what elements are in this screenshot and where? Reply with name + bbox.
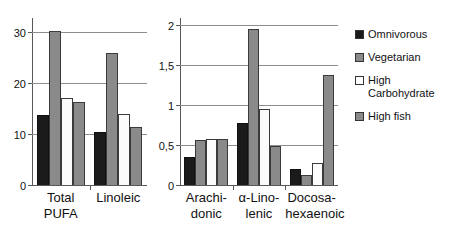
legend-swatch-icon (355, 53, 364, 62)
plot-wrapper-right: 00,511,52 Arachi- donicα-Lino- lenicDoco… (148, 0, 353, 232)
bar (61, 98, 73, 185)
legend-swatch-icon (355, 112, 364, 121)
bar (270, 146, 281, 185)
bar-group (90, 17, 148, 185)
y-tick-label: 20 (14, 79, 26, 90)
bar (248, 29, 259, 185)
bar (290, 169, 301, 185)
bar (37, 115, 49, 185)
legend-item[interactable]: Vegetarian (355, 51, 449, 64)
y-tick-label: 1 (168, 101, 174, 112)
bar-set (90, 17, 148, 185)
bar (206, 139, 217, 185)
category-label: Arachi- donic (180, 190, 233, 222)
bar (184, 157, 195, 185)
chart-panel-left: 0102030 Total PUFALinoleic (0, 0, 155, 232)
legend-swatch-icon (355, 76, 364, 85)
category-label: Docosa- hexaenoic (285, 190, 338, 222)
bar-set (180, 17, 233, 185)
bar (323, 75, 334, 185)
y-tick-label: 2 (168, 21, 174, 32)
legend-swatch-icon (355, 30, 364, 39)
bar (217, 139, 228, 185)
bar-set (32, 17, 90, 185)
category-label: Total PUFA (32, 190, 90, 222)
y-tick-label: 30 (14, 28, 26, 39)
legend-label: Omnivorous (368, 28, 427, 41)
chart-legend: OmnivorousVegetarianHigh CarbohydrateHig… (355, 28, 449, 133)
y-tick-label: 1,5 (159, 61, 174, 72)
bar (195, 140, 206, 185)
y-tick-label: 10 (14, 130, 26, 141)
legend-label: Vegetarian (368, 51, 421, 64)
category-label: Linoleic (90, 190, 148, 206)
y-tick (28, 185, 32, 186)
y-tick-label: 0 (168, 181, 174, 192)
y-tick-label: 0,5 (159, 141, 174, 152)
bar (73, 102, 85, 185)
bar (49, 31, 61, 185)
legend-item[interactable]: Omnivorous (355, 28, 449, 41)
chart-panel-right: 00,511,52 Arachi- donicα-Lino- lenicDoco… (148, 0, 353, 232)
bar-group (180, 17, 233, 185)
bar (259, 109, 270, 185)
legend-label: High Carbohydrate (368, 74, 435, 100)
y-tick-label: 0 (20, 181, 26, 192)
plot-area-left: 0102030 (32, 18, 147, 186)
bar (312, 163, 323, 185)
bar-set (233, 17, 286, 185)
bar-group (233, 17, 286, 185)
legend-label: High fish (368, 110, 411, 123)
bar (118, 114, 130, 185)
x-axis-right (180, 185, 338, 186)
legend-item[interactable]: High fish (355, 110, 449, 123)
plot-wrapper-left: 0102030 Total PUFALinoleic (0, 0, 155, 232)
bar-group (32, 17, 90, 185)
plot-area-right: 00,511,52 (180, 18, 338, 186)
bar (94, 132, 106, 185)
bar (237, 123, 248, 185)
legend-item[interactable]: High Carbohydrate (355, 74, 449, 100)
y-tick (176, 185, 180, 186)
category-label: α-Lino- lenic (233, 190, 286, 222)
bar-set (285, 17, 338, 185)
bar (106, 53, 118, 185)
bar (130, 127, 142, 185)
bar (301, 175, 312, 185)
bar-group (285, 17, 338, 185)
chart-figure: 0102030 Total PUFALinoleic 00,511,52 Ara… (0, 0, 449, 232)
